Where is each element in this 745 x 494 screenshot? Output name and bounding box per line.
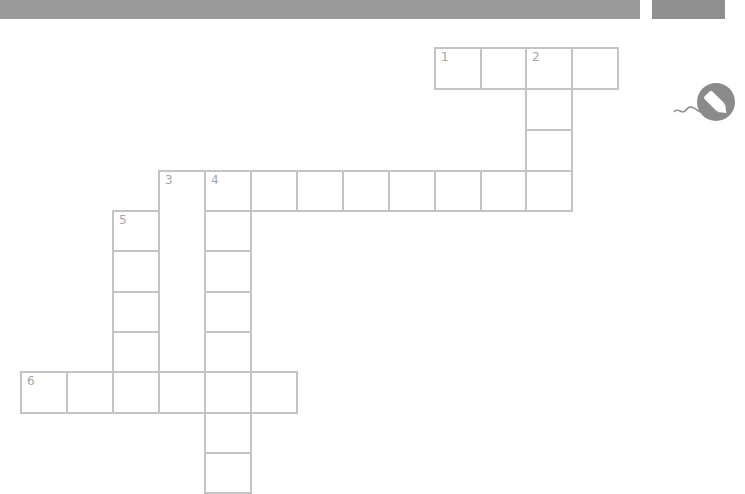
crossword-cell[interactable]: [204, 412, 252, 454]
crossword-cell[interactable]: [571, 47, 619, 90]
clue-number-1: 1: [441, 51, 449, 63]
crossword-cell[interactable]: 6: [20, 371, 68, 414]
header-bar: [0, 0, 640, 19]
crossword-cell[interactable]: [480, 170, 527, 212]
crossword-cell[interactable]: [112, 291, 160, 333]
crossword-cell[interactable]: [480, 47, 527, 90]
crossword-cell[interactable]: 2: [525, 47, 573, 90]
clue-number-3: 3: [165, 174, 173, 186]
crossword-cell[interactable]: [112, 371, 160, 414]
crossword-cell[interactable]: [158, 210, 206, 373]
crossword-cell[interactable]: [250, 170, 298, 212]
clue-number-2: 2: [532, 51, 540, 63]
crossword-cell[interactable]: [112, 331, 160, 373]
crossword-cell[interactable]: [388, 170, 436, 212]
crossword-cell[interactable]: [250, 371, 298, 414]
clue-number-4: 4: [211, 174, 219, 186]
crossword-cell[interactable]: [112, 250, 160, 293]
crossword-cell[interactable]: [204, 291, 252, 333]
crossword-cell[interactable]: 3: [158, 170, 206, 212]
crossword-cell[interactable]: [204, 210, 252, 252]
crossword-cell[interactable]: [204, 250, 252, 293]
clue-number-5: 5: [119, 214, 127, 226]
crossword-cell[interactable]: [525, 88, 573, 131]
crossword-cell[interactable]: [204, 452, 252, 494]
crossword-cell[interactable]: 5: [112, 210, 160, 252]
crossword-cell[interactable]: [204, 331, 252, 373]
pencil-writing-icon: [672, 82, 738, 122]
crossword-cell[interactable]: [342, 170, 390, 212]
crossword-cell[interactable]: [296, 170, 344, 212]
crossword-cell[interactable]: [525, 129, 573, 172]
crossword-cell[interactable]: [204, 371, 252, 414]
crossword-cell[interactable]: [158, 371, 206, 414]
header-side-tab: [652, 0, 725, 19]
crossword-cell[interactable]: [66, 371, 114, 414]
clue-number-6: 6: [27, 375, 35, 387]
crossword-cell[interactable]: [525, 170, 573, 212]
crossword-cell[interactable]: [434, 170, 482, 212]
crossword-cell[interactable]: 4: [204, 170, 252, 212]
crossword-cell[interactable]: 1: [434, 47, 482, 90]
